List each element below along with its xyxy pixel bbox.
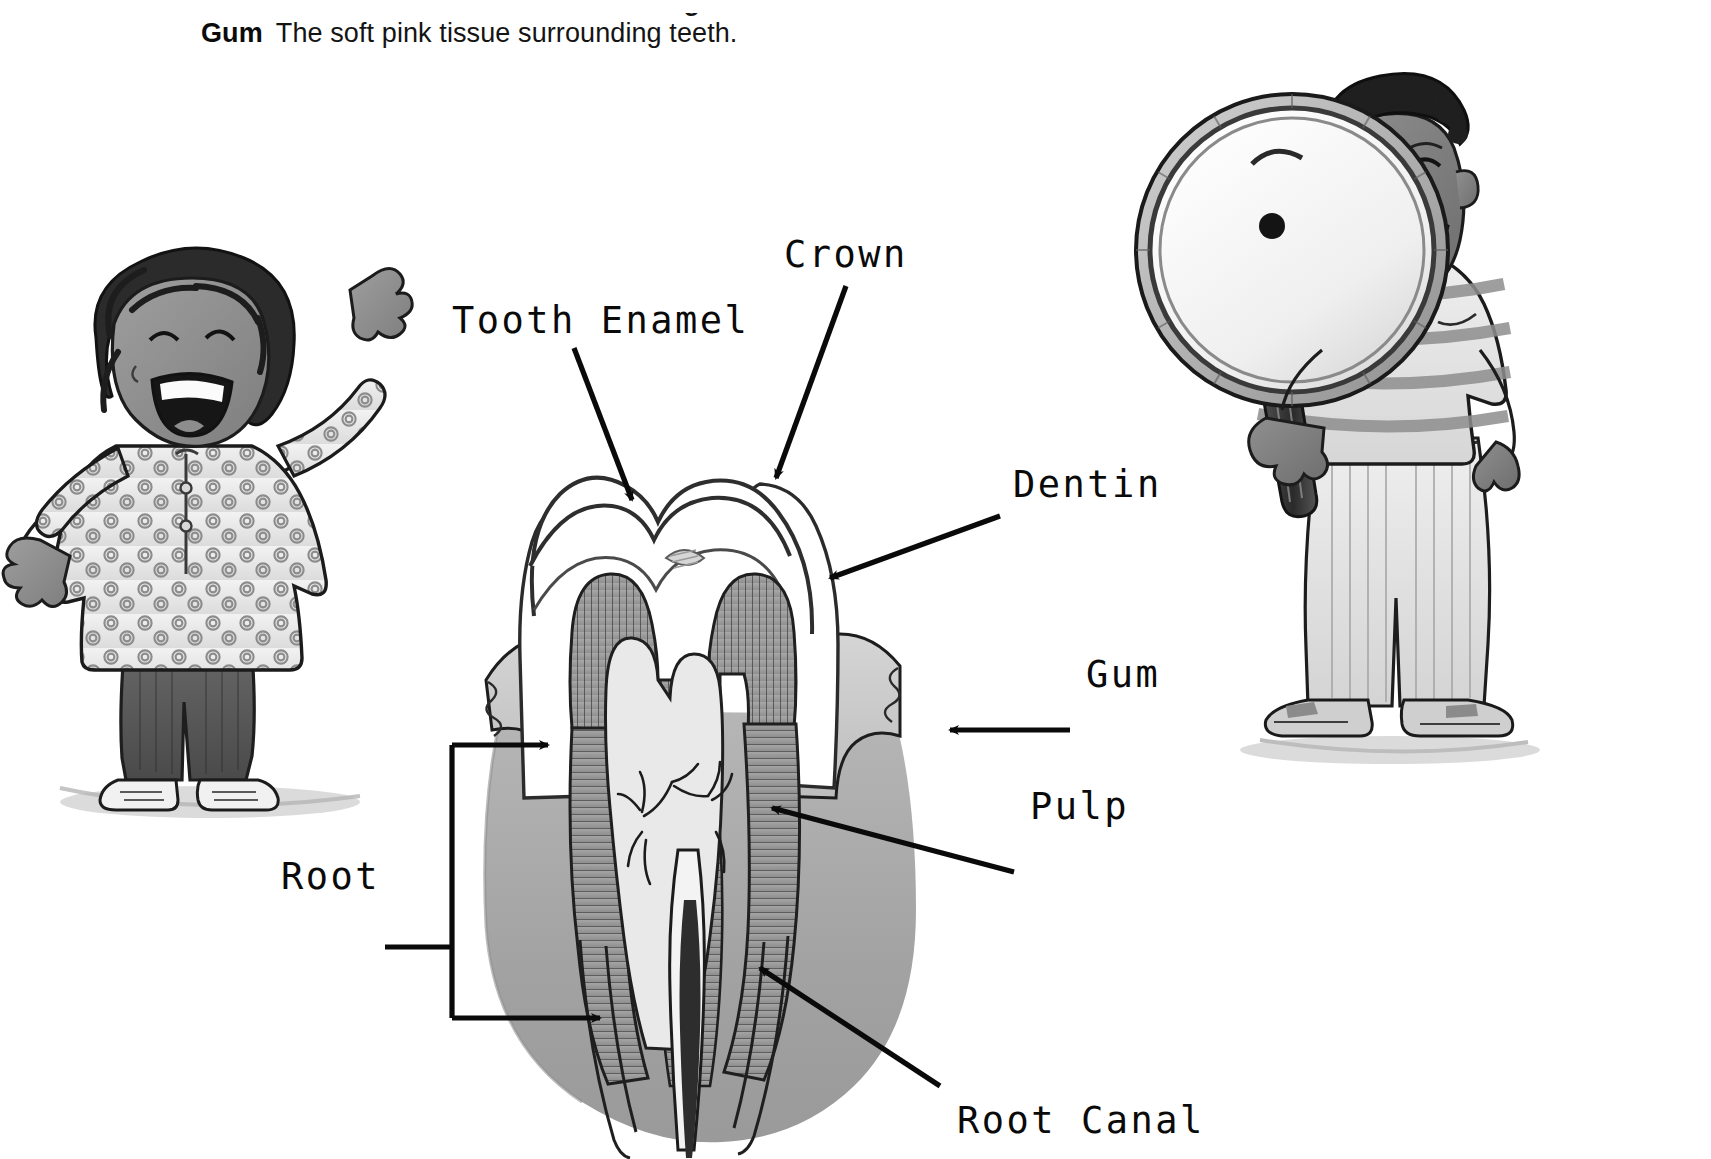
leader-root-bracket: [385, 745, 600, 1018]
leader-pulp: [772, 808, 1014, 872]
leader-crown: [776, 286, 846, 478]
label-leader-lines: [0, 0, 1711, 1159]
leader-dentin: [830, 516, 1000, 578]
leader-tooth-enamel: [574, 348, 632, 500]
leader-root-canal: [760, 968, 940, 1086]
textbook-page: Tooth Enamel The hard outer covering Gum…: [0, 0, 1711, 1159]
